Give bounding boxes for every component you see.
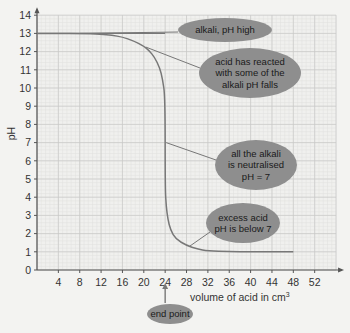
x-axis-arrow-icon — [338, 268, 344, 273]
annotation-text: pH is below 7 — [214, 223, 271, 234]
annotation-text: alkali pH falls — [222, 79, 278, 90]
y-tick-label: 8 — [25, 118, 31, 130]
annotation-text: excess acid — [218, 212, 268, 223]
y-tick-label: 5 — [25, 173, 31, 185]
y-tick-label: 13 — [19, 27, 31, 39]
annotation-text: acid has reacted — [215, 56, 285, 67]
x-tick-label: 48 — [287, 276, 299, 288]
y-tick-label: 7 — [25, 136, 31, 148]
annotation-text: is neutralised — [228, 159, 284, 170]
annotation-text: end point — [150, 308, 189, 319]
x-tick-label: 40 — [245, 276, 257, 288]
annotation-text: all the alkali — [231, 148, 281, 159]
x-axis-title: volume of acid in cm3 — [190, 291, 290, 303]
x-tick-label: 36 — [223, 276, 235, 288]
x-tick-label: 44 — [266, 276, 278, 288]
y-tick-label: 0 — [25, 264, 31, 276]
annotation-end-point: end point — [147, 304, 193, 324]
x-tick-label: 28 — [181, 276, 193, 288]
x-tick-label: 52 — [309, 276, 321, 288]
y-tick-label: 10 — [19, 82, 31, 94]
y-tick-label: 9 — [25, 100, 31, 112]
y-tick-label: 4 — [25, 191, 31, 203]
grid — [37, 15, 336, 270]
y-tick-label: 3 — [25, 209, 31, 221]
x-tick-label: 20 — [138, 276, 150, 288]
x-tick-label: 8 — [77, 276, 83, 288]
y-axis-title: pH — [5, 127, 17, 140]
y-tick-label: 12 — [19, 45, 31, 57]
x-tick-label: 16 — [117, 276, 129, 288]
annotation-text: with some of the — [214, 67, 284, 78]
x-tick-label: 4 — [55, 276, 61, 288]
titration-chart: 0123456789101112131448121620242832364044… — [0, 0, 350, 333]
y-tick-label: 14 — [19, 9, 31, 21]
y-tick-label: 2 — [25, 227, 31, 239]
x-tick-label: 12 — [95, 276, 107, 288]
annotation-text: pH = 7 — [242, 171, 270, 182]
x-tick-label: 32 — [202, 276, 214, 288]
y-tick-label: 6 — [25, 155, 31, 167]
y-tick-label: 1 — [25, 246, 31, 258]
y-axis-arrow-icon — [35, 7, 40, 13]
annotation-text: alkali, pH high — [195, 24, 255, 35]
y-tick-label: 11 — [20, 64, 31, 76]
